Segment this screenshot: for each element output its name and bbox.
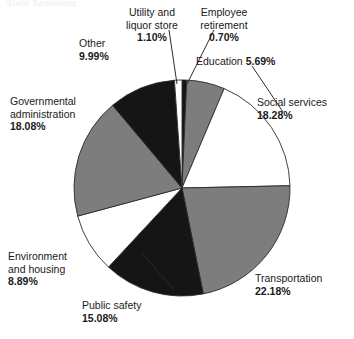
slice-label-education: Education 5.69%: [196, 55, 275, 68]
slice-label-governmental-administration: Governmental administration 18.08%: [10, 95, 76, 133]
slice-value-employee: 0.70%: [191, 31, 257, 44]
slice-label-transportation: Transportation 22.18%: [255, 272, 322, 297]
slice-label-environment-line2: and housing: [8, 263, 67, 276]
slice-value-social: 18.28%: [257, 109, 327, 122]
slice-label-social-line1: Social services: [257, 96, 327, 109]
slice-label-environment-line1: Environment: [8, 250, 67, 263]
slice-label-employee-line2: retirement: [191, 19, 257, 32]
slice-value-utility: 1.10%: [119, 31, 185, 44]
slice-value-transportation: 22.18%: [255, 285, 322, 298]
slice-value-govt: 18.08%: [10, 120, 76, 133]
slice-label-utility-and-liquor-store: Utility and liquor store 1.10%: [119, 6, 185, 44]
slice-label-employee-retirement: Employee retirement 0.70%: [191, 6, 257, 44]
slice-label-environment-and-housing: Environment and housing 8.89%: [8, 250, 67, 288]
slice-value-publicsafety: 15.08%: [82, 312, 142, 325]
slice-label-other-line1: Other: [79, 37, 109, 50]
slice-label-transportation-line1: Transportation: [255, 272, 322, 285]
slice-label-publicsafety-line1: Public safety: [82, 299, 142, 312]
slice-value-environment: 8.89%: [8, 275, 67, 288]
slice-label-employee-line1: Employee: [191, 6, 257, 19]
slice-label-utility-line1: Utility and: [119, 6, 185, 19]
pie-chart-figure: State Spending Utility and liquor store …: [0, 0, 354, 339]
slice-value-other: 9.99%: [79, 50, 109, 63]
slice-label-govt-line1: Governmental: [10, 95, 76, 108]
slice-label-social-services: Social services 18.28%: [257, 96, 327, 121]
slice-value-education: 5.69%: [246, 55, 276, 67]
slice-label-govt-line2: administration: [10, 108, 76, 121]
slice-label-public-safety: Public safety 15.08%: [82, 299, 142, 324]
slice-label-other: Other 9.99%: [79, 37, 109, 62]
slice-label-utility-line2: liquor store: [119, 19, 185, 32]
slice-label-education-text: Education: [196, 55, 243, 67]
